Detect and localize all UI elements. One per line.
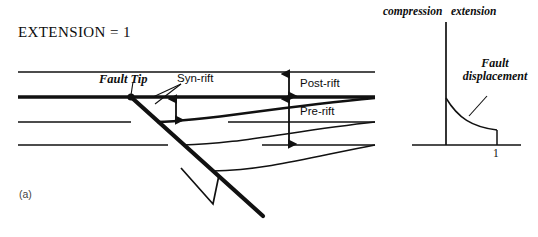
syn-rift-horizon-3 <box>212 145 375 171</box>
panel-letter: (a) <box>19 188 32 200</box>
pre-rift-label: Pre-rift <box>300 105 335 117</box>
inset-annotation-leader <box>469 96 487 116</box>
syn-rift-label: Syn-rift <box>177 72 213 84</box>
inset-extension-label: extension <box>451 5 496 17</box>
post-rift-label: Post-rift <box>300 77 340 89</box>
page-title: EXTENSION = 1 <box>18 24 131 41</box>
fault-tip-label: Fault Tip <box>99 72 148 87</box>
fault-displacement-line-2: displacement <box>452 70 538 83</box>
inset-x-tick-label: 1 <box>493 147 499 159</box>
syn-rift-horizon-2 <box>183 122 375 145</box>
fault-displacement-annotation: Fault displacement <box>452 57 538 84</box>
figure-canvas: EXTENSION = 1 Fault Tip Syn-rift Post-ri… <box>0 0 538 237</box>
syn-rift-wedge-horizons <box>157 98 375 171</box>
fault-plane <box>127 93 263 216</box>
inset-compression-label: compression <box>383 5 442 17</box>
syn-rift-horizon-1 <box>157 98 375 122</box>
fault-displacement-line-1: Fault <box>452 57 538 70</box>
